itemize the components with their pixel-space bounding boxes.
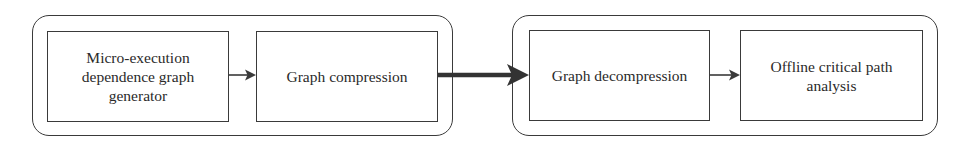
arrow-n3-to-n4	[710, 70, 740, 81]
arrow-n1-to-n2	[229, 70, 256, 81]
arrow-n2-to-n3-thick	[438, 64, 529, 86]
edges-layer	[0, 0, 969, 150]
